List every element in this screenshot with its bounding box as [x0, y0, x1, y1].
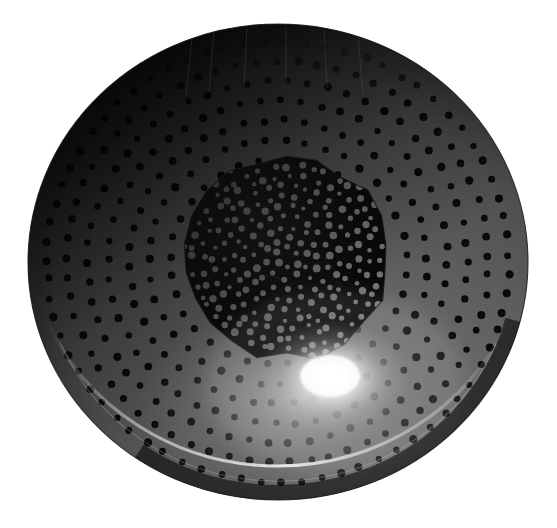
basin-hole — [197, 221, 201, 225]
image-canvas — [0, 0, 557, 528]
basin-hole — [326, 212, 332, 218]
basin-hole — [367, 259, 372, 264]
basin-hole — [275, 259, 283, 267]
basin-hole — [342, 276, 348, 282]
basin-hole — [188, 251, 196, 259]
basin-hole — [346, 197, 352, 203]
basin-hole — [288, 174, 292, 178]
basin-hole — [294, 251, 299, 256]
basin-hole — [335, 245, 343, 253]
basin-hole — [236, 239, 240, 243]
basin-hole — [213, 245, 217, 249]
basin-hole — [295, 214, 300, 219]
basin-hole — [208, 229, 212, 233]
basin-hole — [330, 232, 338, 240]
basin-hole — [320, 168, 326, 174]
basin-hole — [307, 199, 313, 205]
basin-hole — [294, 271, 301, 278]
basin-hole — [240, 257, 246, 263]
basin-hole — [354, 209, 360, 215]
basin-hole — [355, 241, 362, 248]
basin-hole — [327, 184, 334, 191]
basin-hole — [311, 242, 317, 248]
basin-hole — [252, 182, 256, 186]
basin-hole — [258, 242, 264, 248]
basin-hole — [355, 255, 362, 262]
basin-hole — [270, 270, 275, 275]
basin-hole — [337, 178, 343, 184]
basin-hole — [243, 207, 251, 215]
basin-hole — [379, 244, 384, 249]
basin-hole — [316, 180, 321, 185]
basin-hole — [217, 203, 224, 210]
basin-hole — [214, 281, 220, 287]
basin-hole — [285, 265, 290, 270]
basin-hole — [260, 290, 266, 296]
basin-hole — [267, 216, 273, 222]
basin-hole — [291, 194, 298, 201]
basin-hole — [308, 276, 312, 280]
basin-hole — [303, 265, 308, 270]
basin-hole — [315, 229, 321, 235]
basin-hole — [367, 233, 374, 240]
basin-hole — [267, 230, 274, 237]
basin-hole — [326, 198, 332, 204]
basin-hole — [364, 272, 370, 278]
basin-hole — [285, 286, 291, 292]
basin-hole — [362, 206, 368, 212]
basin-hole — [201, 296, 206, 301]
basin-hole — [262, 208, 269, 215]
basin-hole — [273, 248, 280, 255]
basin-hole — [201, 241, 206, 246]
basin-hole — [264, 245, 271, 252]
basin-hole — [372, 226, 378, 232]
basin-hole — [253, 191, 258, 196]
basin-hole — [190, 272, 195, 277]
basin-hole — [202, 254, 208, 260]
basin-hole — [225, 217, 230, 222]
basin-hole — [224, 197, 231, 204]
basin-texture-stroke — [274, 222, 275, 237]
basin-hole — [203, 282, 210, 289]
basin-hole — [238, 225, 244, 231]
basin-hole — [337, 191, 341, 195]
basin-hole — [313, 212, 319, 218]
basin-hole — [357, 195, 364, 202]
basin-hole — [195, 284, 200, 289]
basin-hole — [220, 290, 227, 297]
basin-hole — [228, 232, 234, 238]
basin-hole — [326, 252, 334, 260]
basin-hole — [281, 213, 286, 218]
basin-hole — [251, 252, 256, 257]
basin-hole — [348, 246, 353, 251]
basin-hole — [222, 240, 227, 245]
basin-hole — [227, 285, 231, 289]
basin-hole — [224, 186, 230, 192]
basin-hole — [304, 221, 311, 228]
basin-hole — [344, 182, 351, 189]
basin-hole — [253, 264, 261, 272]
basin-hole — [294, 184, 298, 188]
basin-hole — [215, 193, 219, 197]
basin-hole — [313, 265, 321, 273]
basin-hole — [304, 250, 311, 257]
basin-hole — [367, 248, 371, 252]
basin-hole — [236, 291, 242, 297]
basin-hole — [232, 216, 239, 223]
basin-hole — [354, 228, 360, 234]
basin-hole — [355, 281, 360, 286]
basin-hole — [259, 177, 266, 184]
basin-hole — [250, 218, 254, 222]
basin-hole — [327, 285, 332, 290]
basin-hole — [272, 177, 276, 181]
basin-hole — [250, 232, 257, 239]
basin-hole — [238, 200, 245, 207]
basin-hole — [348, 216, 353, 221]
basin-hole — [303, 187, 307, 191]
basin-hole — [243, 245, 248, 250]
basin-hole — [373, 283, 379, 289]
basin-hole — [333, 271, 340, 278]
basin-hole — [215, 305, 222, 312]
basin-hole — [337, 261, 342, 266]
basin-hole — [244, 270, 251, 277]
